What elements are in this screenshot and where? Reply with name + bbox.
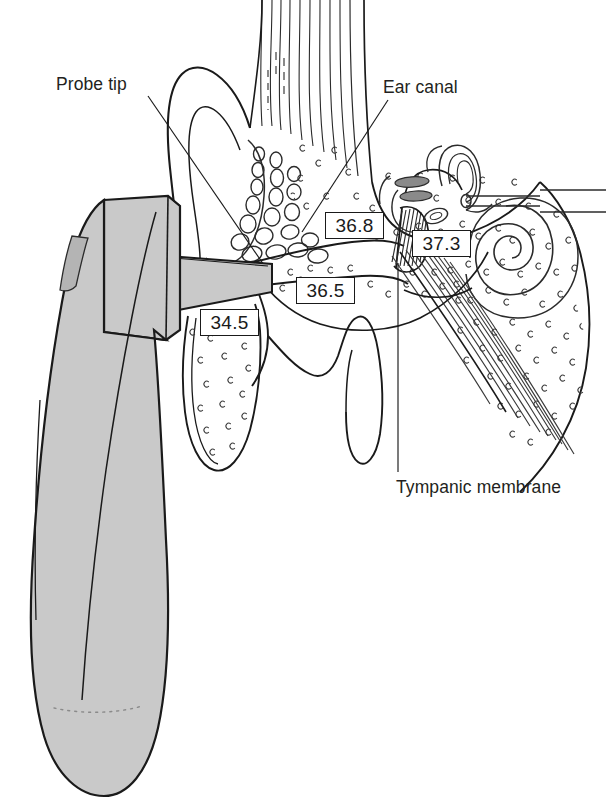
diagram-canvas: Probe tip Ear canal Tympanic membrane 36… (0, 0, 606, 812)
label-ear-canal: Ear canal (383, 79, 458, 97)
temperature-box-canal-floor: 36.5 (296, 277, 355, 304)
temperature-box-tympanic-membrane: 37.3 (412, 230, 471, 257)
label-probe-tip: Probe tip (56, 76, 127, 94)
temperature-box-ear-canal: 36.8 (325, 212, 384, 239)
temperature-box-earlobe: 34.5 (200, 309, 259, 336)
label-tympanic-membrane: Tympanic membrane (396, 479, 561, 497)
ear-anatomy-illustration (0, 0, 606, 812)
